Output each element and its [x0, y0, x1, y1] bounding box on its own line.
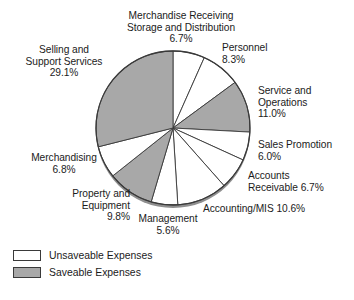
slice-label-management: Management 5.6% — [131, 213, 205, 236]
slice-label-accounts-receivable: Accounts Receivable 6.7% — [248, 170, 352, 193]
legend-item[interactable]: Unsaveable Expenses — [13, 248, 152, 262]
pie-slice-group — [96, 51, 250, 205]
slice-label-sales-promotion: Sales Promotion 6.0% — [258, 139, 354, 162]
legend-item[interactable]: Saveable Expenses — [13, 265, 152, 279]
legend-swatch — [13, 250, 41, 261]
slice-label-selling-and-support-services: Selling and Support Services 29.1% — [14, 44, 114, 79]
legend-swatch — [13, 267, 41, 278]
slice-label-property-and-equipment: Property and Equipment 9.8% — [46, 188, 130, 223]
legend-item-label: Unsaveable Expenses — [49, 250, 152, 261]
chart-legend: Unsaveable ExpensesSaveable Expenses — [13, 248, 152, 282]
slice-label-accounting-mis: Accounting/MIS 10.6% — [203, 203, 327, 215]
slice-label-merchandising: Merchandising 6.8% — [22, 152, 106, 175]
slice-label-personnel: Personnel 8.3% — [222, 42, 308, 65]
legend-item-label: Saveable Expenses — [49, 267, 141, 278]
slice-label-service-and-operations: Service and Operations 11.0% — [258, 85, 352, 120]
slice-label-merchandise-receiving: Merchandise Receiving Storage and Distri… — [110, 10, 252, 45]
pie-chart-figure: Merchandise Receiving Storage and Distri… — [0, 0, 354, 300]
